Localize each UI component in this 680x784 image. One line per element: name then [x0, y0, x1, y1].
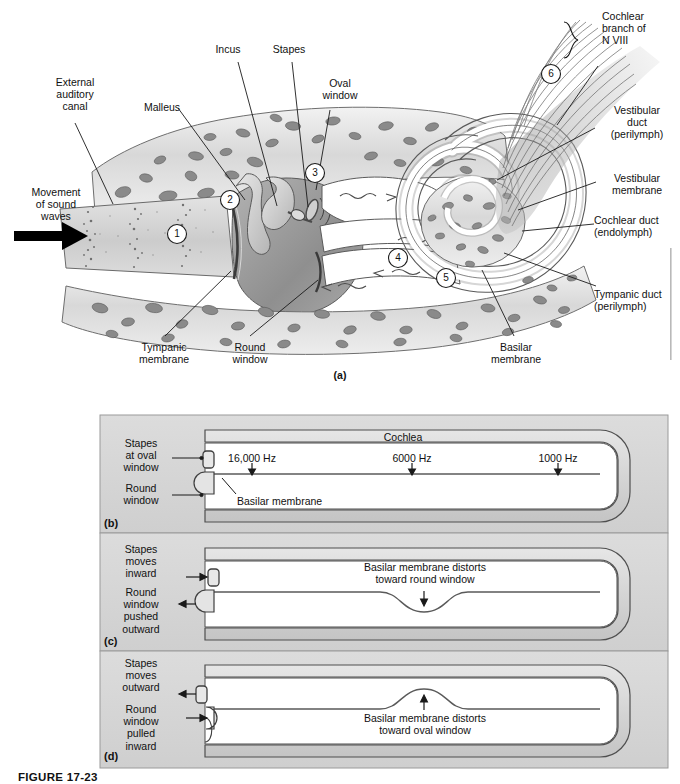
- label-cochlear-branch-n8: Cochlear branch of N VIII: [602, 10, 678, 47]
- label-tympanic-membrane: Tympanic membrane: [118, 341, 210, 365]
- figure-canvas: [0, 0, 680, 784]
- panel-d-stapes-label: Stapes moves outward: [110, 657, 172, 694]
- label-vestibular-membrane: Vestibular membrane: [598, 172, 676, 196]
- label-cochlear-duct: Cochlear duct (endolymph): [594, 214, 680, 238]
- panel-c-round-window-label: Round window pushed outward: [110, 586, 172, 635]
- label-round-window: Round window: [210, 341, 290, 365]
- panel-a-artwork: [14, 20, 660, 354]
- panel-a-letter: (a): [325, 369, 355, 381]
- figure-ear-sound-transduction: External auditory canal Malleus Incus St…: [0, 0, 680, 784]
- panel-c-stapes-label: Stapes moves inward: [110, 543, 172, 580]
- panel-b-frequency-0: 16,000 Hz: [212, 452, 292, 464]
- panel-b-round-window-label: Round window: [110, 482, 172, 506]
- panel-d-letter: (d): [104, 750, 130, 762]
- figure-caption: FIGURE 17-23: [18, 771, 98, 783]
- panel-b-frequency-2: 1000 Hz: [521, 452, 595, 464]
- step-number-5: 5: [437, 272, 455, 284]
- panel-d-cochlea: [179, 665, 630, 757]
- label-vestibular-duct: Vestibular duct (perilymph): [598, 104, 676, 141]
- step-number-2: 2: [221, 194, 239, 206]
- label-external-auditory-canal: External auditory canal: [22, 76, 128, 113]
- panel-d-stapes: [196, 686, 207, 703]
- panel-d-round-window-label: Round window pulled inward: [110, 703, 172, 752]
- step-number-6: 6: [542, 68, 560, 80]
- panel-b-cochlea: [172, 430, 630, 522]
- panel-b-title: Cochlea: [358, 431, 448, 443]
- panel-d-distortion-label: Basilar membrane distorts toward oval wi…: [330, 712, 520, 736]
- step-number-3: 3: [306, 167, 324, 179]
- label-oval-window: Oval window: [310, 77, 370, 101]
- panel-c-stapes: [208, 569, 219, 586]
- panel-b-letter: (b): [104, 517, 130, 529]
- panel-b-frequency-1: 6000 Hz: [374, 452, 450, 464]
- panel-b-stapes-label: Stapes at oval window: [110, 437, 172, 474]
- panel-b-round-window: [194, 472, 214, 494]
- label-tympanic-duct: Tympanic duct (perilymph): [594, 288, 680, 312]
- panel-b-basilar-membrane-label: Basilar membrane: [237, 495, 377, 507]
- panel-c-round-window: [195, 590, 214, 612]
- label-stapes: Stapes: [258, 43, 320, 55]
- step-number-4: 4: [389, 252, 407, 264]
- label-malleus: Malleus: [129, 101, 195, 113]
- panel-c-distortion-label: Basilar membrane distorts toward round w…: [330, 561, 520, 585]
- panel-c-letter: (c): [104, 635, 130, 647]
- step-number-1: 1: [168, 228, 186, 240]
- label-basilar-membrane: Basilar membrane: [474, 341, 558, 365]
- label-incus: Incus: [200, 43, 256, 55]
- label-movement-of-sound-waves: Movement of sound waves: [10, 186, 102, 223]
